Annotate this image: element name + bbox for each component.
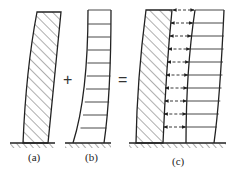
hatched-wall-c <box>136 10 172 143</box>
plus-operator: + <box>63 71 72 88</box>
diagram-stage: (a) + (b) = <box>0 0 231 175</box>
label-b: (b) <box>85 151 98 164</box>
ground-b <box>65 143 111 148</box>
panel-c: (c) <box>129 10 226 168</box>
ground-a <box>10 143 55 148</box>
label-c: (c) <box>172 155 185 168</box>
frame-right-edge-b <box>104 10 111 143</box>
label-a: (a) <box>28 151 41 164</box>
ground-c <box>129 143 226 148</box>
panel-a: (a) <box>10 12 61 164</box>
frame-beams-b <box>81 10 112 128</box>
frame-right-column-c <box>214 10 224 143</box>
frame-left-edge-b <box>73 10 88 143</box>
superposition-diagram: (a) + (b) = <box>0 0 231 175</box>
frame-left-column-c <box>186 10 195 143</box>
hatched-wall-a <box>23 12 61 143</box>
equals-operator: = <box>118 71 127 88</box>
